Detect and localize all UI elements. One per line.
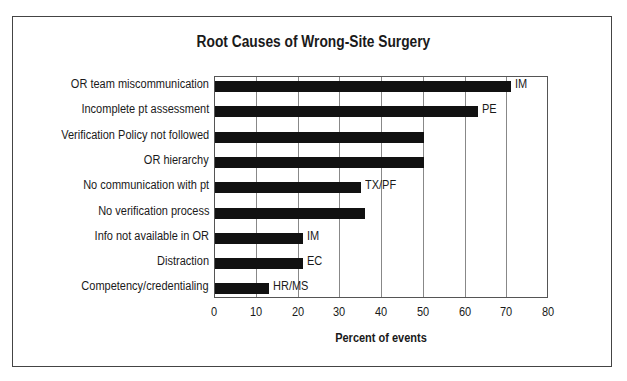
category-label: No communication with pt bbox=[83, 178, 209, 192]
x-axis-label: Percent of events bbox=[234, 331, 528, 345]
bar-annotation: TX/PF bbox=[365, 178, 396, 192]
category-label: OR hierarchy bbox=[144, 153, 209, 167]
x-tick-label: 30 bbox=[326, 305, 352, 319]
x-tick-label: 50 bbox=[410, 305, 436, 319]
bar bbox=[215, 106, 478, 117]
bar bbox=[215, 208, 365, 219]
chart-title: Root Causes of Wrong-Site Surgery bbox=[44, 33, 583, 51]
bar bbox=[215, 81, 511, 92]
bar-annotation: HR/MS bbox=[273, 279, 308, 293]
gridline bbox=[506, 77, 507, 297]
category-label: Competency/credentialing bbox=[82, 279, 209, 293]
bar bbox=[215, 157, 424, 168]
x-tick-label: 20 bbox=[284, 305, 310, 319]
bar-annotation: IM bbox=[307, 229, 319, 243]
category-label: OR team miscommunication bbox=[71, 77, 209, 91]
category-label: No verification process bbox=[98, 204, 209, 218]
bar-annotation: IM bbox=[515, 77, 527, 91]
bar bbox=[215, 132, 424, 143]
category-label: Incomplete pt assessment bbox=[81, 102, 209, 116]
bar bbox=[215, 258, 303, 269]
x-tick-label: 40 bbox=[368, 305, 394, 319]
bar-annotation: PE bbox=[482, 102, 497, 116]
x-tick-label: 70 bbox=[493, 305, 519, 319]
bar bbox=[215, 182, 361, 193]
category-label: Distraction bbox=[157, 254, 209, 268]
category-label: Verification Policy not followed bbox=[61, 128, 209, 142]
x-tick-label: 80 bbox=[535, 305, 561, 319]
bar bbox=[215, 233, 303, 244]
x-tick-label: 60 bbox=[451, 305, 477, 319]
x-tick-label: 0 bbox=[201, 305, 227, 319]
bar bbox=[215, 283, 269, 294]
x-tick-label: 10 bbox=[243, 305, 269, 319]
category-label: Info not available in OR bbox=[95, 229, 209, 243]
bar-annotation: EC bbox=[307, 254, 322, 268]
